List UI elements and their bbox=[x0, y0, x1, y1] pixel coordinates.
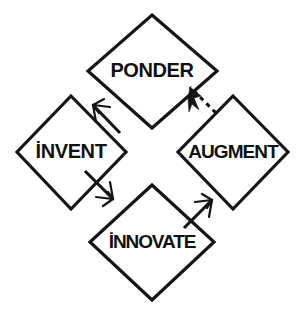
edge-innovate-to-augment[interactable] bbox=[184, 194, 212, 228]
node-augment-label: AUGMENT bbox=[188, 141, 279, 162]
edge-innovate-to-augment-line bbox=[184, 200, 212, 228]
node-invent-label: İNVENT bbox=[36, 140, 107, 162]
node-ponder[interactable]: PONDER bbox=[88, 15, 217, 128]
node-ponder-label: PONDER bbox=[110, 59, 194, 81]
diagram-canvas: PONDER İNVENT İNNOVATE AUGMENT bbox=[0, 0, 304, 314]
edge-augment-to-ponder[interactable] bbox=[188, 87, 216, 113]
edge-augment-to-ponder-arrowhead bbox=[188, 87, 201, 112]
node-innovate-label: İNNOVATE bbox=[109, 231, 196, 252]
node-augment[interactable]: AUGMENT bbox=[178, 96, 288, 209]
node-invent[interactable]: İNVENT bbox=[17, 96, 126, 209]
diagram-svg: PONDER İNVENT İNNOVATE AUGMENT bbox=[0, 0, 304, 314]
